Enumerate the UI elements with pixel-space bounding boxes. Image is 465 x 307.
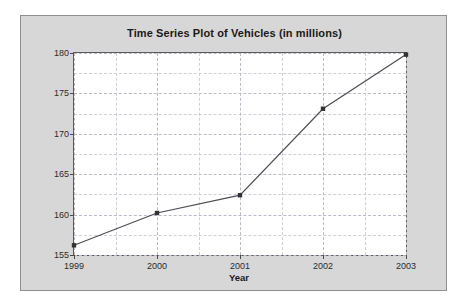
y-tick-label: 165 [54, 169, 69, 179]
x-tick-mark [323, 255, 324, 259]
x-tick-mark [406, 255, 407, 259]
x-tick-label: 2002 [313, 261, 333, 271]
x-tick-mark [74, 255, 75, 259]
y-tick-label: 155 [54, 250, 69, 260]
x-tick-label: 2001 [230, 261, 250, 271]
series-markers [72, 52, 408, 247]
x-tick-label: 1999 [64, 261, 84, 271]
y-tick-label: 175 [54, 88, 69, 98]
chart-title: Time Series Plot of Vehicles (in million… [21, 27, 448, 39]
chart-figure-frame: Time Series Plot of Vehicles (in million… [20, 15, 447, 291]
y-tick-label: 160 [54, 210, 69, 220]
data-point-marker [404, 52, 408, 56]
plot-area: 15516016517017518019992000200120022003 [73, 52, 407, 256]
x-tick-label: 2003 [396, 261, 416, 271]
y-tick-label: 180 [54, 48, 69, 58]
x-tick-label: 2000 [147, 261, 167, 271]
x-tick-mark [240, 255, 241, 259]
data-point-marker [155, 211, 159, 215]
data-point-marker [72, 243, 76, 247]
series-polyline [74, 55, 406, 246]
y-tick-label: 170 [54, 129, 69, 139]
data-series-line [74, 53, 406, 255]
x-axis-title: Year [73, 272, 405, 283]
data-point-marker [321, 107, 325, 111]
data-point-marker [238, 193, 242, 197]
x-tick-mark [157, 255, 158, 259]
gridline-vertical [406, 53, 407, 255]
